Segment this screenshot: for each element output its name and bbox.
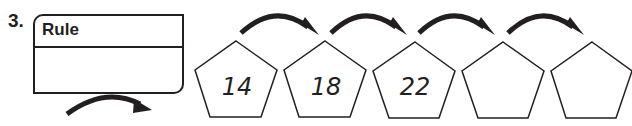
- sequence-value-1: 14: [207, 73, 267, 101]
- arrow-icon: [241, 16, 308, 33]
- sequence-diagram: [0, 0, 632, 126]
- arrow-icon: [419, 16, 484, 33]
- pentagon-5[interactable]: [551, 42, 632, 118]
- sequence-value-2: 18: [296, 73, 356, 101]
- arrow-icon: [508, 16, 573, 33]
- pentagon-4[interactable]: [462, 42, 544, 118]
- rule-arrow-icon: [67, 97, 152, 114]
- step-arrows: [241, 16, 573, 33]
- sequence-value-3: 22: [385, 73, 445, 101]
- arrow-icon: [331, 16, 396, 33]
